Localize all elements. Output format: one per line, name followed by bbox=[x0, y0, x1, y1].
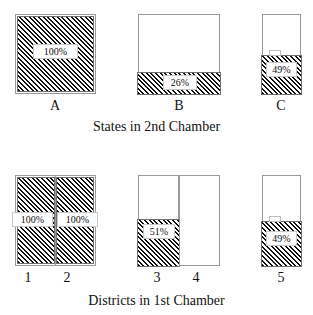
bar-notch-c bbox=[269, 50, 281, 56]
bar-divider-3-4 bbox=[179, 175, 180, 266]
axis-label-1: 1 bbox=[10, 270, 46, 286]
bar-notch-5 bbox=[269, 216, 281, 222]
axis-label-b: B bbox=[161, 98, 197, 114]
value-label-2: 100% bbox=[57, 212, 98, 227]
value-label-b: 26% bbox=[163, 75, 197, 90]
axis-label-a: A bbox=[37, 98, 73, 114]
axis-label-5: 5 bbox=[263, 270, 299, 286]
value-label-1: 100% bbox=[12, 212, 53, 227]
value-label-c: 49% bbox=[266, 62, 297, 77]
caption-districts-1st-chamber: Districts in 1st Chamber bbox=[0, 292, 313, 309]
bar-outline-4 bbox=[179, 175, 220, 266]
chart-figure: 100% A 26% B 49% C States in 2nd Chamber… bbox=[0, 0, 313, 315]
axis-label-4: 4 bbox=[178, 270, 214, 286]
axis-label-c: C bbox=[263, 98, 299, 114]
caption-states-2nd-chamber: States in 2nd Chamber bbox=[0, 118, 313, 135]
value-label-5: 49% bbox=[266, 231, 297, 246]
axis-label-3: 3 bbox=[139, 270, 175, 286]
axis-label-2: 2 bbox=[49, 270, 85, 286]
value-label-3: 51% bbox=[143, 224, 175, 239]
value-label-a: 100% bbox=[33, 44, 78, 59]
bar-divider-1-2 bbox=[55, 175, 56, 266]
